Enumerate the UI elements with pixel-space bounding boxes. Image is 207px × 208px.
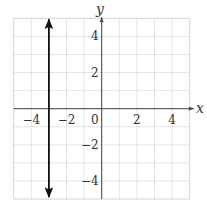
y-tick-label: −2 — [81, 138, 99, 152]
y-tick-label: −4 — [81, 174, 99, 188]
coordinate-plane: −4−202442−2−4 x y — [0, 0, 207, 208]
x-axis-label: x — [196, 100, 204, 116]
x-tick-label: −2 — [58, 113, 76, 127]
y-tick-label: 4 — [91, 29, 99, 43]
axes — [14, 17, 194, 199]
x-tick-label: 2 — [133, 113, 141, 127]
y-tick-label: 2 — [91, 66, 99, 80]
x-tick-label: −4 — [22, 113, 40, 127]
y-axis-label: y — [95, 1, 105, 17]
x-tick-label: 4 — [168, 113, 176, 127]
x-tick-label: 0 — [91, 113, 99, 127]
